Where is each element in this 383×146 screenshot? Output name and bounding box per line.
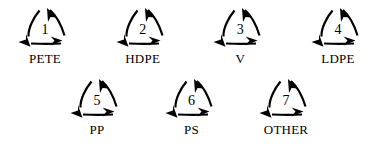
symbol-row-top: 1 PETE 2 <box>0 2 383 66</box>
mobius-loop-7: 7 <box>255 73 317 123</box>
mobius-loop-2: 2 <box>112 2 174 52</box>
code-number: 6 <box>161 73 223 123</box>
mobius-loop-6: 6 <box>161 73 223 123</box>
resin-label: OTHER <box>264 123 308 137</box>
resin-label: HDPE <box>125 52 160 66</box>
resin-label: PS <box>184 123 199 137</box>
mobius-loop-4: 4 <box>307 2 369 52</box>
resin-label: PP <box>90 123 105 137</box>
recycling-codes-figure: 1 PETE 2 <box>0 0 383 146</box>
resin-label: V <box>236 52 246 66</box>
symbol-row-bottom: 5 PP 6 P <box>0 73 383 137</box>
resin-label: PETE <box>29 52 61 66</box>
code-number: 3 <box>209 2 271 52</box>
code-number: 5 <box>66 73 128 123</box>
mobius-loop-5: 5 <box>66 73 128 123</box>
code-number: 4 <box>307 2 369 52</box>
recycling-symbol-6: 6 PS <box>153 73 231 137</box>
recycling-symbol-3: 3 V <box>201 2 279 66</box>
code-number: 7 <box>255 73 317 123</box>
recycling-symbol-5: 5 PP <box>58 73 136 137</box>
resin-label: LDPE <box>321 52 354 66</box>
mobius-loop-3: 3 <box>209 2 271 52</box>
code-number: 2 <box>112 2 174 52</box>
recycling-symbol-2: 2 HDPE <box>104 2 182 66</box>
mobius-loop-1: 1 <box>14 2 76 52</box>
recycling-symbol-7: 7 OTHER <box>247 73 325 137</box>
recycling-symbol-4: 4 LDPE <box>299 2 377 66</box>
recycling-symbol-1: 1 PETE <box>6 2 84 66</box>
code-number: 1 <box>14 2 76 52</box>
